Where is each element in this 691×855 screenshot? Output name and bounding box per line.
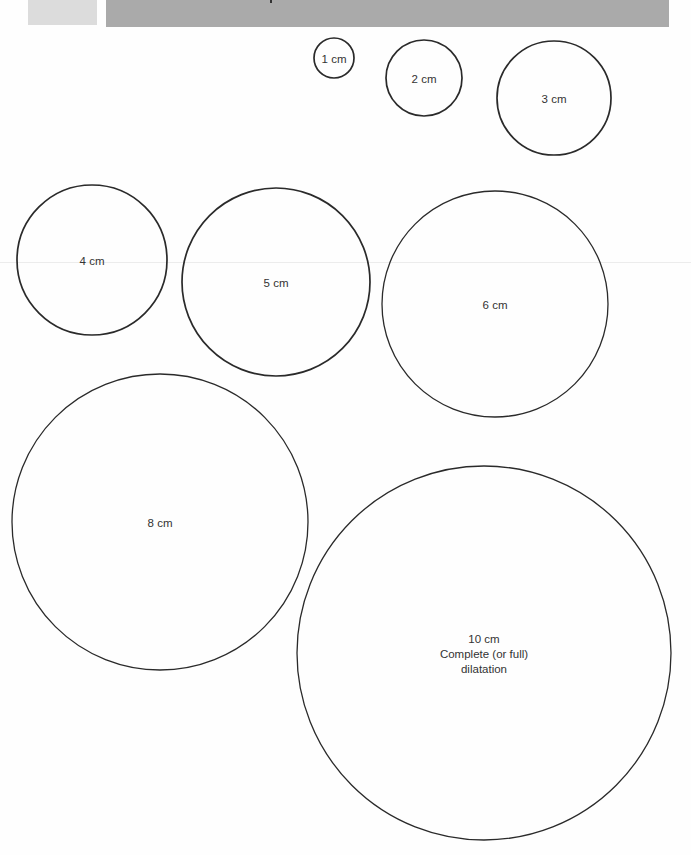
- label-2cm-text: 2 cm: [412, 72, 437, 87]
- label-8cm: 8 cm: [148, 516, 173, 531]
- label-3cm-text: 3 cm: [542, 92, 567, 107]
- label-8cm-text: 8 cm: [148, 516, 173, 531]
- label-4cm: 4 cm: [80, 254, 105, 269]
- label-10cm-sub1: Complete (or full): [440, 647, 528, 662]
- label-5cm: 5 cm: [264, 276, 289, 291]
- label-4cm-text: 4 cm: [80, 254, 105, 269]
- dilatation-diagram: [0, 0, 691, 855]
- label-6cm-text: 6 cm: [483, 298, 508, 313]
- label-3cm: 3 cm: [542, 92, 567, 107]
- label-10cm: 10 cm Complete (or full) dilatation: [440, 632, 528, 677]
- label-10cm-text: 10 cm: [440, 632, 528, 647]
- label-2cm: 2 cm: [412, 72, 437, 87]
- label-6cm: 6 cm: [483, 298, 508, 313]
- label-5cm-text: 5 cm: [264, 276, 289, 291]
- label-1cm: 1 cm: [322, 52, 347, 67]
- label-1cm-text: 1 cm: [322, 52, 347, 67]
- label-10cm-sub2: dilatation: [440, 662, 528, 677]
